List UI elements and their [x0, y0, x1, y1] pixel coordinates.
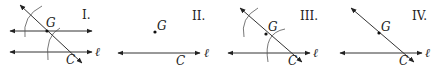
label-l: ℓ: [95, 45, 100, 59]
label-c: C: [288, 54, 297, 68]
label-l: ℓ: [204, 46, 209, 60]
panel-numeral: III.: [300, 9, 318, 23]
panel-numeral: IV.: [412, 9, 427, 23]
panel-iv: G C ℓ IV.: [340, 8, 430, 68]
label-l: ℓ: [313, 46, 318, 60]
label-g: G: [381, 20, 391, 34]
panel-iii: G C ℓ III.: [228, 8, 318, 68]
label-g: G: [46, 16, 56, 30]
label-l: ℓ: [425, 46, 430, 60]
label-c: C: [399, 54, 408, 68]
label-c: C: [176, 54, 185, 68]
label-g: G: [268, 20, 278, 34]
label-g: G: [157, 19, 167, 33]
label-c: C: [66, 53, 75, 67]
panel-numeral: I.: [82, 8, 91, 22]
panel-numeral: II.: [192, 9, 205, 23]
panel-ii: G C ℓ II.: [118, 9, 209, 68]
construction-diagram: G C ℓ I. G C ℓ II. G C ℓ III. G C ℓ IV.: [0, 0, 435, 72]
arc-upper: [25, 6, 42, 37]
panel-i: G C ℓ I.: [10, 5, 100, 67]
